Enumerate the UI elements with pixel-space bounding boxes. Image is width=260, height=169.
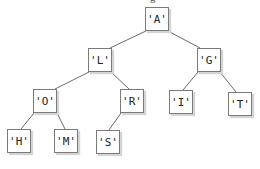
node-M: 'M'	[54, 129, 78, 153]
edge-L-O	[55, 72, 89, 89]
node-A: 'A'	[145, 7, 169, 31]
node-O: 'O'	[33, 89, 57, 113]
edge-R-S	[109, 113, 121, 130]
node-I: 'I'	[169, 90, 193, 114]
edge-A-G	[168, 31, 200, 48]
edge-G-I	[183, 72, 198, 90]
edge-A-L	[110, 31, 146, 48]
node-H: 'H'	[7, 129, 31, 153]
tree-edges	[0, 0, 260, 169]
edge-O-M	[57, 113, 65, 129]
edge-G-T	[220, 72, 236, 92]
node-G: 'G'	[197, 48, 221, 72]
node-T: 'T'	[228, 92, 252, 116]
node-L: 'L'	[88, 48, 112, 72]
edge-O-H	[21, 113, 34, 129]
node-S: 'S'	[96, 130, 120, 154]
node-R: 'R'	[120, 89, 144, 113]
edge-L-R	[111, 72, 129, 89]
